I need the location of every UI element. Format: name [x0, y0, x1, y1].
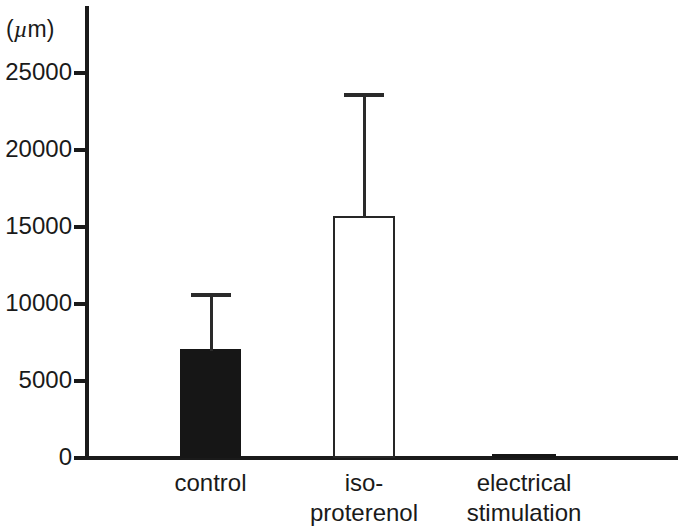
y-axis-tick — [74, 71, 86, 75]
bar-electrical-stim — [492, 454, 556, 458]
x-axis-label-line: electrical — [477, 469, 572, 496]
y-axis-tick — [74, 379, 86, 383]
error-bar-cap-control — [191, 293, 231, 297]
y-axis-tick-label: 25000 — [0, 60, 72, 84]
error-bar-stem-control — [210, 293, 213, 350]
x-axis-label-electrical-stim: electricalstimulation — [414, 468, 634, 528]
y-axis-unit-label: (µm) — [6, 16, 54, 43]
error-bar-cap-iso-proterenol — [344, 93, 384, 97]
y-axis-tick — [74, 302, 86, 306]
bar-control — [180, 349, 241, 458]
y-axis-tick — [74, 456, 86, 460]
error-bar-stem-iso-proterenol — [363, 93, 366, 218]
y-axis-tick — [74, 148, 86, 152]
bar-iso-proterenol — [333, 216, 395, 458]
y-axis-tick — [74, 225, 86, 229]
x-axis-label-line: iso- — [345, 469, 384, 496]
y-axis-tick-label: 5000 — [0, 368, 72, 392]
bar-chart: (µm) 0500010000150002000025000 controlis… — [0, 0, 680, 529]
x-axis-label-line: stimulation — [414, 498, 634, 528]
y-axis-tick-label: 15000 — [0, 214, 72, 238]
y-axis-tick-label: 0 — [0, 445, 72, 469]
y-axis-tick-label: 10000 — [0, 291, 72, 315]
y-axis-tick-label: 20000 — [0, 137, 72, 161]
x-axis-label-line: control — [174, 469, 246, 496]
